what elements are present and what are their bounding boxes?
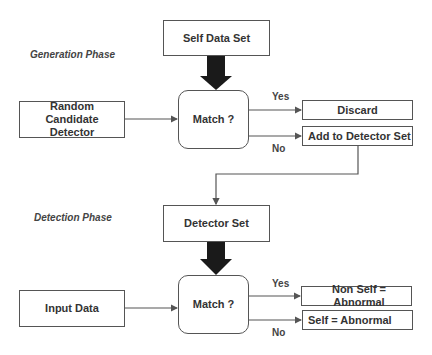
yes-label-detection: Yes <box>272 278 289 289</box>
self-abnormal-label: Self = Abnormal <box>308 314 392 327</box>
discard-label: Discard <box>337 104 377 117</box>
self-abnormal-box: Self = Abnormal <box>302 310 413 330</box>
random-candidate-detector-box: Random Candidate Detector <box>19 101 125 138</box>
input-data-box: Input Data <box>19 290 125 327</box>
add-to-detector-set-label: Add to Detector Set <box>308 130 411 143</box>
self-data-set-label: Self Data Set <box>183 32 250 45</box>
match-decision-generation: Match ? <box>178 90 249 149</box>
yes-label-generation: Yes <box>272 91 289 102</box>
thick-arrow-bottom <box>200 241 232 275</box>
detector-set-box: Detector Set <box>163 205 270 242</box>
match-decision-detection: Match ? <box>178 275 249 334</box>
input-data-label: Input Data <box>45 302 99 315</box>
random-candidate-detector-label: Random Candidate Detector <box>32 100 112 139</box>
no-label-detection: No <box>272 327 285 338</box>
match-label: Match ? <box>193 298 235 311</box>
self-data-set-box: Self Data Set <box>163 20 270 56</box>
non-self-abnormal-label: Non Self = Abnormal <box>307 283 411 309</box>
detector-set-label: Detector Set <box>184 217 249 230</box>
generation-phase-title: Generation Phase <box>30 49 115 60</box>
add-to-detector-set-box: Add to Detector Set <box>302 126 413 146</box>
match-label: Match ? <box>193 113 235 126</box>
discard-box: Discard <box>302 100 413 120</box>
no-label-generation: No <box>272 143 285 154</box>
detection-phase-title: Detection Phase <box>34 212 112 223</box>
non-self-abnormal-box: Non Self = Abnormal <box>301 286 412 306</box>
thick-arrow-top <box>200 55 232 90</box>
